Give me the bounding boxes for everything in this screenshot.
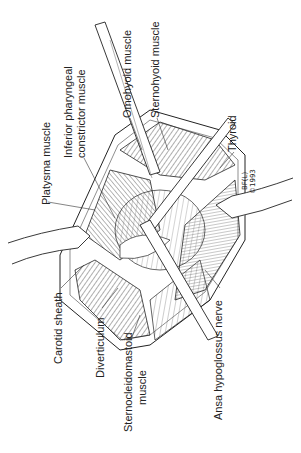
label-sternohyoid-muscle: Sternohyoid muscle: [149, 21, 161, 118]
label-inferior-pharyngeal-line2: constrictor muscle: [75, 69, 87, 158]
label-omohyoid-muscle: Omohyoid muscle: [121, 30, 133, 118]
label-platysma-muscle: Platysma muscle: [40, 122, 52, 205]
label-carotid-sheath: Carotid sheath: [52, 292, 64, 364]
artist-signature-line1: BF(L): [242, 172, 249, 190]
label-diverticulum: Diverticulum: [94, 317, 106, 378]
label-inferior-pharyngeal-line1: Inferior pharyngeal: [62, 66, 74, 158]
artist-signature-line2: ©1993: [250, 169, 257, 194]
label-sternocleidomastoid-line2: muscle: [136, 370, 148, 405]
label-sternocleidomastoid-line1: Sternocleidomastoid: [122, 332, 134, 432]
label-ansa-hypoglossus-nerve: Ansa hypoglossus nerve: [212, 300, 224, 420]
label-thyroid: Thyroid: [226, 115, 238, 152]
